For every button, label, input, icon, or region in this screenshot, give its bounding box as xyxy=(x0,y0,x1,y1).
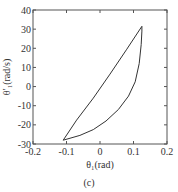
y-tick-label: 30 xyxy=(21,24,31,35)
y-axis-ticks: -30-20-10010203040 xyxy=(18,5,167,150)
data-series-line xyxy=(63,26,142,140)
x-axis-ticks: -0.2-0.100.10.2 xyxy=(25,10,173,157)
y-tick-label: -30 xyxy=(18,139,31,150)
y-tick-label: -10 xyxy=(18,100,31,111)
x-tick-label: 0.1 xyxy=(127,146,140,157)
x-tick-label: -0.1 xyxy=(59,146,75,157)
figure-caption: (c) xyxy=(0,177,178,188)
y-axis-label: θ′₁(rad/s) xyxy=(1,59,13,96)
plot-frame xyxy=(33,10,167,144)
y-tick-label: 10 xyxy=(21,62,31,73)
phase-plot: -0.2-0.100.10.2 -30-20-10010203040 θ₁(ra… xyxy=(0,0,178,192)
y-tick-label: 40 xyxy=(21,5,31,16)
y-tick-label: 20 xyxy=(21,43,31,54)
x-tick-label: 0 xyxy=(98,146,103,157)
x-tick-label: 0.2 xyxy=(161,146,174,157)
y-tick-label: 0 xyxy=(26,81,31,92)
y-tick-label: -20 xyxy=(18,119,31,130)
x-axis-label: θ₁(rad) xyxy=(86,159,114,171)
